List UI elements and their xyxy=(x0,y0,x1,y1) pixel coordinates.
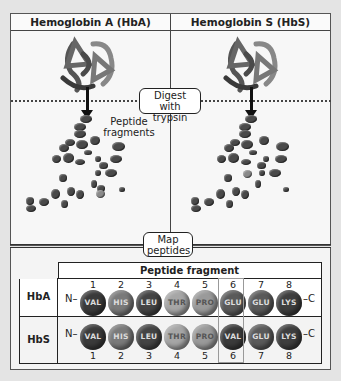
fragment xyxy=(276,142,289,151)
fragment xyxy=(241,190,249,199)
position-number: 8 xyxy=(276,279,302,290)
fragment xyxy=(263,156,269,162)
fragment xyxy=(217,155,226,163)
c-terminus: –C xyxy=(303,293,315,304)
residue-lys: LYS xyxy=(276,324,302,350)
residue-his: HIS xyxy=(108,290,134,316)
fragment xyxy=(76,190,84,199)
residue-his: HIS xyxy=(108,324,134,350)
hba-row: N– 1 2 3 4 5 6 7 8 VAL HIS LEU THR PRO G… xyxy=(58,278,321,316)
hbs-title: Hemoglobin S (HbS) xyxy=(171,14,330,31)
fragment xyxy=(259,136,269,145)
fragment xyxy=(74,130,86,138)
fragments-label-line2: fragments xyxy=(103,127,155,138)
fragment xyxy=(67,187,75,196)
fragment xyxy=(241,140,253,149)
position-number: 1 xyxy=(80,350,106,361)
residue-thr: THR xyxy=(164,324,190,350)
fragment xyxy=(275,155,287,163)
position-number: 4 xyxy=(164,350,190,361)
fragment xyxy=(228,153,239,163)
fragment xyxy=(269,169,281,177)
fragment xyxy=(245,115,257,123)
fragment xyxy=(259,170,265,176)
fragment xyxy=(239,130,251,138)
arrow-down-left-icon xyxy=(86,87,89,112)
fragment xyxy=(95,170,101,176)
fragment xyxy=(39,198,49,206)
fragment xyxy=(255,180,261,188)
fragment xyxy=(26,205,36,212)
fragment xyxy=(119,187,125,192)
fragment xyxy=(249,150,257,155)
position-number: 1 xyxy=(80,279,106,290)
digestion-panel: Hemoglobin A (HbA) Hemoglobin S (HbS) Pe… xyxy=(10,13,331,246)
position-number: 5 xyxy=(192,350,218,361)
row-label-hbs: HbS xyxy=(20,317,58,363)
fragment xyxy=(95,156,101,162)
fragment xyxy=(51,189,60,199)
hbs-row: N– VAL HIS LEU THR PRO VAL GLU LYS –C 1 … xyxy=(58,317,321,363)
fragment xyxy=(52,155,61,163)
hemoglobin-s-molecule-icon xyxy=(216,34,286,94)
position-number: 3 xyxy=(136,350,162,361)
fragment xyxy=(204,198,214,206)
fragment xyxy=(75,159,85,165)
position-number: 7 xyxy=(248,279,274,290)
fragment xyxy=(224,144,234,152)
fragment xyxy=(224,174,232,182)
position-number: 7 xyxy=(248,350,274,361)
fragment xyxy=(191,205,201,212)
fragment-highlighted xyxy=(96,190,105,198)
fragment xyxy=(226,200,233,208)
digest-line2: trypsin xyxy=(143,112,197,123)
position-number: 8 xyxy=(276,350,302,361)
fragment xyxy=(110,155,122,163)
residue-glu: GLU xyxy=(248,324,274,350)
map-peptides-label: Map peptides xyxy=(143,232,193,257)
fragment xyxy=(105,169,117,177)
n-terminus: N– xyxy=(65,293,77,304)
fragment xyxy=(80,115,92,123)
residue-thr: THR xyxy=(164,290,190,316)
residue-glu: GLU xyxy=(248,290,274,316)
fragment xyxy=(59,144,69,152)
fragment xyxy=(84,150,92,155)
fragment xyxy=(112,142,125,151)
row-label-hba: HbA xyxy=(20,278,58,316)
residue-lys: LYS xyxy=(276,290,302,316)
hba-title: Hemoglobin A (HbA) xyxy=(11,14,170,31)
c-terminus: –C xyxy=(303,328,315,339)
fragment xyxy=(257,162,266,169)
dotted-divider-right xyxy=(201,100,331,102)
n-terminus: N– xyxy=(65,328,77,339)
fragment xyxy=(283,187,289,192)
panel-divider xyxy=(170,14,171,247)
fragment xyxy=(26,197,34,205)
digest-line1: Digest with xyxy=(143,90,197,112)
map-line2: peptides xyxy=(147,245,189,256)
fragment xyxy=(191,197,199,205)
position-number: 5 xyxy=(192,279,218,290)
fragment xyxy=(216,189,225,199)
fragment xyxy=(63,153,74,163)
residue-leu: LEU xyxy=(136,290,162,316)
fragment xyxy=(90,136,100,145)
fragment xyxy=(241,159,251,165)
position-number: 2 xyxy=(108,350,134,361)
residue-pro: PRO xyxy=(192,290,218,316)
residue-pro: PRO xyxy=(192,324,218,350)
residue-val: VAL xyxy=(80,324,106,350)
digest-with-trypsin-label: Digest with trypsin xyxy=(139,88,201,114)
position-number: 3 xyxy=(136,279,162,290)
residue-leu: LEU xyxy=(136,324,162,350)
residue-val: VAL xyxy=(80,290,106,316)
fragment xyxy=(232,187,240,196)
arrow-down-right-icon xyxy=(250,87,253,112)
fragment xyxy=(59,174,67,182)
position-6-highlight-box xyxy=(218,278,244,363)
fragment xyxy=(61,200,68,208)
fragment xyxy=(76,140,88,149)
position-number: 2 xyxy=(108,279,134,290)
map-line1: Map xyxy=(147,234,189,245)
